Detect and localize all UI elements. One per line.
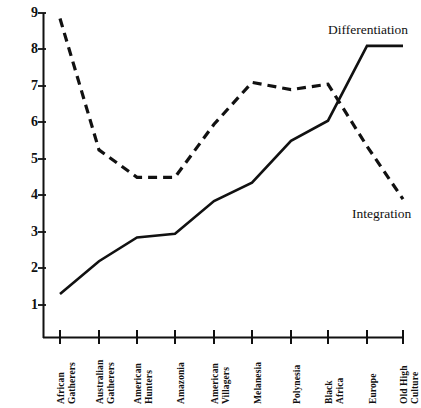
series-label-differentiation: Differentiation xyxy=(328,22,408,38)
x-axis-category-label-line: Melanesia xyxy=(253,344,264,404)
x-axis-category-label-line: African xyxy=(56,344,67,404)
x-axis-category-label-line: Africa xyxy=(335,344,346,404)
x-axis-category-label-line: Gatherers xyxy=(106,344,117,404)
x-axis-category-label-line: Old High xyxy=(399,344,410,404)
x-axis-category-label-line: American xyxy=(210,344,221,404)
x-axis-category-label-line: American xyxy=(133,344,144,404)
series-line-differentiation xyxy=(60,19,403,200)
x-axis-category-label: Old HighCulture xyxy=(399,344,421,406)
line-chart: 9 8 7 6 5 4 3 2 1 Differentiation Integr… xyxy=(0,0,421,408)
y-axis-ticks xyxy=(38,13,46,305)
x-axis-category-label-line: Europe xyxy=(368,344,379,404)
x-axis-category-label-line: Villagers xyxy=(221,344,232,404)
x-axis-category-label-line: Gatherers xyxy=(67,344,78,404)
series-label-integration: Integration xyxy=(352,206,411,222)
x-axis-category-label-line: Amazonia xyxy=(176,344,187,404)
x-axis-category-label-line: Black xyxy=(324,344,335,404)
x-axis-category-label-line: Culture xyxy=(410,344,421,404)
x-axis-category-label-line: Australian xyxy=(95,344,106,404)
x-axis-category-label-line: Polynesia xyxy=(292,344,303,404)
series-line-integration xyxy=(60,46,403,294)
x-axis-category-label-line: Hunters xyxy=(144,344,155,404)
